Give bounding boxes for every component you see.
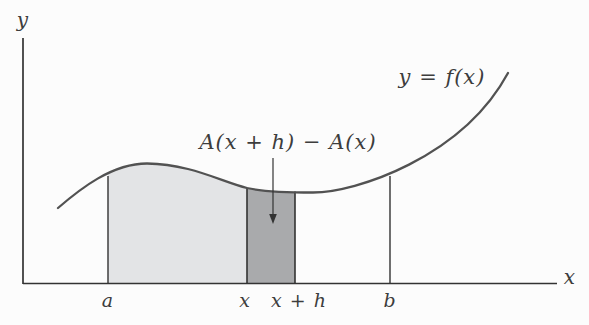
tick-label-a: a: [102, 291, 114, 310]
curve-label: y = f(x): [399, 67, 486, 88]
y-axis-label: y: [17, 10, 29, 30]
tick-label-x: x: [239, 291, 251, 310]
area-function-diagram: y x y = f(x) A(x + h) − A(x) a x x + h b: [0, 0, 589, 325]
tick-label-b: b: [383, 291, 396, 310]
tick-label-x-plus-h: x + h: [271, 291, 327, 310]
x-axis-label: x: [564, 267, 576, 287]
area-annotation: A(x + h) − A(x): [199, 132, 376, 153]
diagram-canvas: [0, 0, 589, 325]
